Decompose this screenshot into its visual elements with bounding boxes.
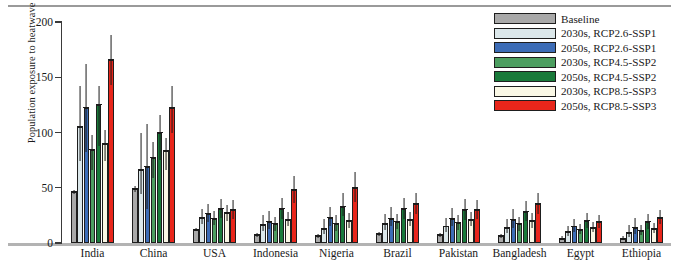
- bar-column[interactable]: [254, 22, 260, 243]
- bar-column[interactable]: [279, 22, 285, 243]
- bar[interactable]: [132, 189, 138, 243]
- error-bar: [171, 86, 172, 132]
- error-bar: [141, 133, 142, 195]
- bar-column[interactable]: [157, 22, 163, 243]
- legend-item[interactable]: 2030s, RCP8.5-SSP3: [494, 84, 674, 97]
- bar-column[interactable]: [163, 22, 169, 243]
- bar-column[interactable]: [291, 22, 297, 243]
- legend-label: 2050s, RCP2.6-SSP1: [561, 42, 656, 54]
- bar-column[interactable]: [90, 22, 96, 243]
- bar-column[interactable]: [462, 22, 468, 243]
- bar-column[interactable]: [77, 22, 83, 243]
- error-bar-cap: [83, 107, 89, 108]
- bar-group: USA: [184, 22, 245, 243]
- bar-column[interactable]: [193, 22, 199, 243]
- error-bar-cap: [474, 209, 480, 210]
- error-bar-cap: [102, 143, 108, 144]
- bar-column[interactable]: [145, 22, 151, 243]
- bar-group: Indonesia: [245, 22, 306, 243]
- bar-column[interactable]: [315, 22, 321, 243]
- legend-item[interactable]: 2050s, RCP4.5-SSP2: [494, 70, 674, 83]
- legend-swatch: [494, 100, 556, 111]
- error-bar-cap: [651, 228, 657, 229]
- error-bar: [110, 35, 111, 85]
- x-axis-category-label: India: [81, 247, 105, 260]
- error-bar-cap: [150, 157, 156, 158]
- error-bar-cap: [437, 234, 443, 235]
- error-bar-cap: [205, 213, 211, 214]
- error-bar-cap: [291, 189, 297, 190]
- error-bar-cap: [498, 235, 504, 236]
- bar-column[interactable]: [456, 22, 462, 243]
- y-axis-tick: [55, 187, 62, 188]
- legend-item[interactable]: 2050s, RCP2.6-SSP1: [494, 41, 674, 54]
- error-bar-cap: [352, 187, 358, 188]
- bar-column[interactable]: [199, 22, 205, 243]
- bar-column[interactable]: [151, 22, 157, 243]
- error-bar-cap: [285, 219, 291, 220]
- bar-column[interactable]: [389, 22, 395, 243]
- bar-column[interactable]: [413, 22, 419, 243]
- bar-column[interactable]: [382, 22, 388, 243]
- bar-group-bars: [123, 22, 193, 243]
- bar-column[interactable]: [407, 22, 413, 243]
- bar-column[interactable]: [474, 22, 480, 243]
- bar-column[interactable]: [96, 22, 102, 243]
- legend-label: 2050s, RCP4.5-SSP2: [561, 71, 656, 83]
- error-bar-cap: [218, 208, 224, 209]
- legend-item[interactable]: Baseline: [494, 12, 674, 25]
- bar-column[interactable]: [468, 22, 474, 243]
- error-bar-cap: [96, 104, 102, 105]
- bar-column[interactable]: [206, 22, 212, 243]
- y-axis-tick-label: 150: [36, 71, 53, 83]
- bar-column[interactable]: [224, 22, 230, 243]
- error-bar: [92, 135, 93, 170]
- bar-column[interactable]: [285, 22, 291, 243]
- bar-column[interactable]: [352, 22, 358, 243]
- bar-column[interactable]: [328, 22, 334, 243]
- bar-column[interactable]: [260, 22, 266, 243]
- bar-column[interactable]: [212, 22, 218, 243]
- bar-column[interactable]: [450, 22, 456, 243]
- bar-column[interactable]: [443, 22, 449, 243]
- error-bar: [153, 142, 154, 177]
- bar-column[interactable]: [169, 22, 175, 243]
- bar[interactable]: [71, 192, 77, 243]
- bar-column[interactable]: [108, 22, 114, 243]
- bar-column[interactable]: [218, 22, 224, 243]
- bar-column[interactable]: [267, 22, 273, 243]
- error-bar-cap: [315, 235, 321, 236]
- bar-column[interactable]: [71, 22, 77, 243]
- bar-column[interactable]: [340, 22, 346, 243]
- legend-item[interactable]: 2050s, RCP8.5-SSP3: [494, 99, 674, 112]
- bar[interactable]: [108, 60, 114, 243]
- bar-column[interactable]: [230, 22, 236, 243]
- error-bar-cap: [510, 219, 516, 220]
- error-bar-cap: [169, 107, 175, 108]
- error-bar-cap: [108, 59, 114, 60]
- y-axis-tick-label: 100: [36, 127, 53, 139]
- bar[interactable]: [193, 230, 199, 243]
- error-bar-cap: [443, 226, 449, 227]
- error-bar-cap: [401, 208, 407, 209]
- bar-column[interactable]: [132, 22, 138, 243]
- bar-column[interactable]: [401, 22, 407, 243]
- bar-group: Nigeria: [306, 22, 367, 243]
- bar-column[interactable]: [321, 22, 327, 243]
- error-bar-cap: [638, 230, 644, 231]
- bar-column[interactable]: [273, 22, 279, 243]
- bar-column[interactable]: [138, 22, 144, 243]
- error-bar-cap: [71, 191, 77, 192]
- error-bar-cap: [565, 231, 571, 232]
- bar-column[interactable]: [437, 22, 443, 243]
- bar-column[interactable]: [346, 22, 352, 243]
- legend-item[interactable]: 2030s, RCP2.6-SSP1: [494, 26, 674, 39]
- bar-column[interactable]: [102, 22, 108, 243]
- bar-column[interactable]: [395, 22, 401, 243]
- bar-column[interactable]: [376, 22, 382, 243]
- bar-column[interactable]: [334, 22, 340, 243]
- bar-column[interactable]: [84, 22, 90, 243]
- legend-label: 2030s, RCP2.6-SSP1: [561, 27, 656, 39]
- legend-item[interactable]: 2030s, RCP4.5-SSP2: [494, 55, 674, 68]
- error-bar-cap: [590, 227, 596, 228]
